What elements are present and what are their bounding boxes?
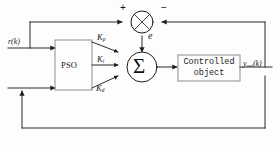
comparator-minus-sign: − (161, 3, 167, 13)
gain-kp-label: Kp (97, 33, 105, 42)
kp-branch-wire (92, 42, 118, 52)
output-signal-label: yout(k) (243, 60, 262, 69)
pso-block-label: PSO (61, 61, 77, 70)
sigma-symbol: Σ (133, 56, 145, 77)
reference-input-label: r(k) (8, 38, 20, 46)
error-signal-label: e (148, 31, 152, 41)
plant-block-label-line1: Controlled (181, 58, 237, 67)
gain-ki-label: Ki (97, 55, 104, 64)
gain-kd-label: Kd (96, 84, 104, 93)
comparator-plus-sign: + (120, 3, 126, 13)
control-block-diagram: r(k) PSO Kp Ki Kd + − e Σ Controlled obj… (0, 0, 280, 150)
plant-block-label-line2: object (181, 69, 237, 78)
